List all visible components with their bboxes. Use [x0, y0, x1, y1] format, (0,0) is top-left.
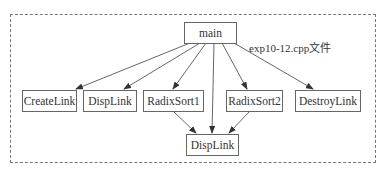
file-label: exp10-12.cpp文件: [249, 39, 331, 55]
edge-main-displink-top: [124, 43, 200, 89]
node-label: RadixSort2: [228, 95, 280, 107]
node-label: main: [199, 27, 222, 39]
edge-main-radixsort2: [222, 43, 247, 89]
node-label: RadixSort1: [147, 95, 199, 107]
edge-radixsort2-displink: [229, 111, 250, 133]
edge-main-radixsort1: [173, 43, 206, 89]
edge-main-displink-bottom: [212, 43, 214, 133]
node-label: CreateLink: [24, 95, 76, 107]
edge-radixsort1-displink: [173, 111, 196, 133]
node-label: DispLink: [88, 95, 131, 107]
node-label: DestroyLink: [299, 95, 357, 107]
node-radixsort2: RadixSort2: [226, 90, 283, 112]
edge-main-createlink: [76, 43, 190, 89]
node-main: main: [184, 22, 237, 44]
node-radixsort1: RadixSort1: [143, 90, 204, 112]
node-createlink: CreateLink: [22, 90, 77, 112]
node-destroylink: DestroyLink: [295, 90, 361, 112]
node-label: DispLink: [191, 139, 234, 151]
node-displink-bottom: DispLink: [186, 134, 239, 156]
node-displink-top: DispLink: [83, 90, 137, 112]
